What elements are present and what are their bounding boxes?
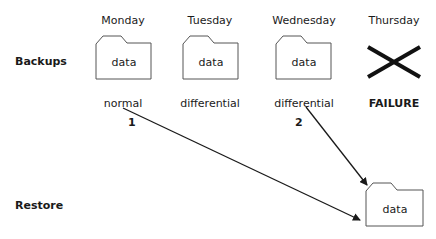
- day-header-thursday: Thursday: [368, 14, 419, 27]
- restore-step-number-2: 2: [295, 116, 303, 129]
- folder-label-monday: data: [112, 56, 137, 69]
- folder-label-tuesday: data: [199, 56, 224, 69]
- backup-type-tuesday: differential: [180, 97, 240, 110]
- day-header-wednesday: Wednesday: [272, 14, 336, 27]
- backup-type-monday: normal: [104, 97, 143, 110]
- folder-label-wednesday: data: [292, 56, 317, 69]
- backups-row-label: Backups: [15, 55, 67, 68]
- restore-arrow-2: [306, 107, 367, 185]
- failure-x-icon: [368, 47, 420, 77]
- day-header-monday: Monday: [101, 14, 144, 27]
- backup-type-wednesday: differential: [274, 97, 334, 110]
- day-header-tuesday: Tuesday: [188, 14, 233, 27]
- restore-row-label: Restore: [15, 199, 63, 212]
- folder-label-restore: data: [383, 203, 408, 216]
- restore-step-number-1: 1: [128, 116, 136, 129]
- backup-status-thursday: FAILURE: [369, 97, 419, 110]
- restore-arrow-1: [123, 108, 360, 220]
- diagram-canvas: [0, 0, 436, 239]
